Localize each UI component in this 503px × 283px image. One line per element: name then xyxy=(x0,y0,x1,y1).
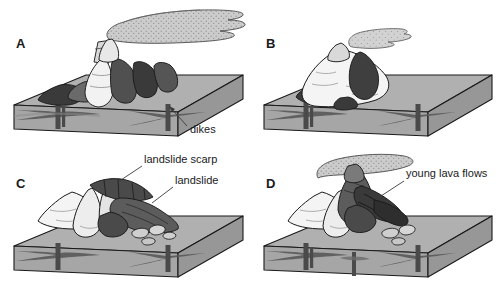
panel-letter-b: B xyxy=(266,36,275,51)
dikes-label: dikes xyxy=(190,123,216,135)
panel-letter-a: A xyxy=(16,36,26,51)
volcano-evolution-figure: A dikes xyxy=(0,0,503,283)
panel-letter-c: C xyxy=(16,176,26,191)
landslide-label: landslide xyxy=(175,174,218,186)
landslide-scarp-label: landslide scarp xyxy=(144,153,217,165)
panel-letter-d: D xyxy=(266,176,275,191)
young-lava-flows-label: young lava flows xyxy=(406,167,488,179)
